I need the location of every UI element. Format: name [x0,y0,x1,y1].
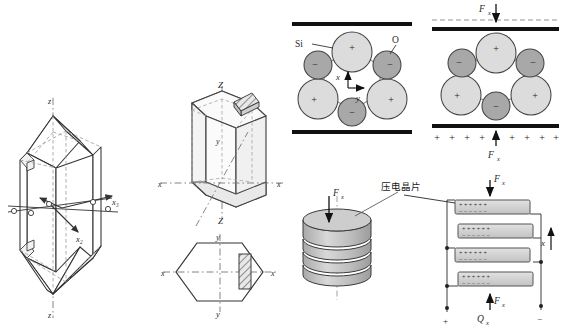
si-label: Si [295,39,303,49]
crystal-wafer-stack: F x 压电晶片 [303,181,421,300]
crystal-axis-z-bottom-label: z [47,311,52,320]
surface-charge: + [553,132,559,143]
wafer-plate: + + + + + + − − − − − − [455,200,530,214]
surface-charge: + [509,132,515,143]
ion-charge-negative: − [349,107,355,118]
circuit-force-bottom-label: F [493,296,500,306]
ion-charge-negative: − [387,59,393,70]
ion-charge-positive: + [388,94,394,105]
wafer-circuit: F x + + + + + + − − − − − − + + + + + + … [404,174,551,326]
ion-charge-negative: − [493,101,499,112]
o-label: O [392,35,399,45]
surface-charge: + [449,132,455,143]
plate-bottom-charges: − − − − − − [462,232,490,238]
hexagon-axis-x-left-label: x [160,269,165,278]
stack-force-label: F [332,188,339,198]
stack-force-sub: x [340,193,344,200]
surface-charge: + [539,132,545,143]
terminal-negative-label: − [537,314,542,324]
circuit-force-bottom-sub: x [501,301,505,308]
hexagon-cross-section: y y x x [160,232,277,319]
ion-charge-positive: + [349,42,355,53]
force-bottom-sub: x [496,155,500,162]
ion-charge-negative: − [312,59,318,70]
figure-canvas: z z x₃ x₂ [0,0,563,335]
disc-bodies [303,209,371,286]
wafer-plate: + + + + + + − − − − − − [458,272,533,286]
circuit-force-top-label: F [493,174,500,184]
hexagon-axis-y-top-label: y [215,232,220,242]
circuit-force-top-sub: x [501,179,505,186]
ion-charge-positive: + [311,94,317,105]
surface-charge: + [524,132,530,143]
crystal-axis-z-top-label: z [47,97,52,106]
prism-axis-z-bottom-label: Z [218,216,224,226]
callout-leader [355,192,398,216]
natural-quartz-crystal: z z x₃ x₂ [8,97,119,320]
sio2-lattice-stressed: F x + + + − − − + + + + [432,4,559,162]
hexagon-wafer-rect [239,254,251,289]
wafer-plate: + + + + + + − − − − − − [458,224,533,238]
surface-charge: + [479,132,485,143]
crystal-axis-x2-label: x₂ [75,234,83,244]
crystal-axis-x3-label: x₃ [111,197,119,207]
prism-axis-y-label: y [215,137,220,146]
lattice-axis-y-label: y [355,93,360,103]
circuit-axis-x-label: x [540,238,545,248]
ion-charge-positive: + [532,90,538,101]
wafer-plate: + + + + + + − − − − − − [455,248,530,262]
hexagon-axis-y-bottom-label: y [215,309,220,319]
plate-bottom-charges: − − − − − − [462,280,490,286]
prism-axis-x-right-label: x [276,180,281,189]
ion-charge-positive: + [493,43,499,54]
force-top-label: F [478,4,485,14]
force-top-sub: x [487,9,491,16]
sio2-lattice-unstressed: + + + − − − Si O x y [292,22,412,134]
prism-axis-z-top-label: Z [218,80,224,90]
prism-axis-x-left-label: x [157,180,162,189]
plate-bottom-charges: − − − − − − [459,208,487,214]
force-bottom-label: F [487,150,494,160]
wafer-callout-label: 压电晶片 [381,181,421,192]
technical-figure: z z x₃ x₂ [0,0,563,335]
surface-charge: + [434,132,440,143]
hexagonal-prism: Z Z x x y [157,80,283,226]
si-leader-line [312,44,333,48]
electrode-top-unstressed [292,22,412,26]
electrode-bottom-unstressed [292,130,412,134]
circuit-charge-sub: x [485,319,489,326]
ion-charge-positive: + [454,90,460,101]
lattice-axis-x-label: x [335,72,340,82]
terminal-positive-label: + [443,316,448,326]
electrode-bottom-stressed [432,124,559,128]
surface-charge: + [464,132,470,143]
ion-charge-negative: − [456,57,462,68]
surface-charge-row: + + + + + + + + [434,132,559,143]
circuit-charge-label: Q [477,314,484,324]
hexagon-axis-x-right-label: x [270,269,275,278]
electrode-top-stressed [432,27,559,31]
plate-bottom-charges: − − − − − − [459,256,487,262]
ion-charge-negative: − [530,57,536,68]
wafer-plates: + + + + + + − − − − − − + + + + + + − − … [455,200,533,286]
